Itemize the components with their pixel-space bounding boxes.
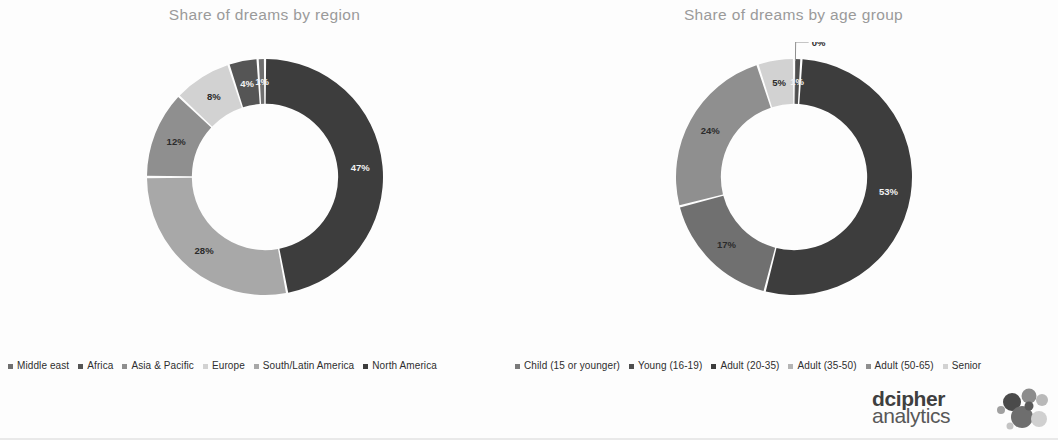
slice-value-label: 47% <box>350 162 370 173</box>
donut-svg-region: 47%28%12%8%4%1% <box>130 42 400 312</box>
legend-item[interactable]: Middle east <box>8 361 69 371</box>
legend-item-label: North America <box>372 361 437 371</box>
logo-dots-icon <box>986 388 1050 434</box>
legend-item-label: Europe <box>212 361 245 371</box>
legend-swatch-icon <box>363 364 368 369</box>
legend-item[interactable]: Adult (35-50) <box>788 361 856 371</box>
chart-title-region: Share of dreams by region <box>0 6 529 24</box>
legend-swatch-icon <box>203 364 208 369</box>
slice-value-label: 53% <box>878 186 898 197</box>
slice-value-label: 8% <box>206 91 220 102</box>
legend-item[interactable]: Adult (20-35) <box>711 361 779 371</box>
legend-item[interactable]: South/Latin America <box>254 361 354 371</box>
donut-callouts-age-group: 0% <box>795 42 826 61</box>
legend-swatch-icon <box>866 364 871 369</box>
legend-item[interactable]: Adult (50-65) <box>866 361 934 371</box>
slice-value-label: 28% <box>194 245 214 256</box>
legend-item-label: Middle east <box>17 361 69 371</box>
slice-value-label: 24% <box>700 125 720 136</box>
legend-swatch-icon <box>8 364 13 369</box>
legend-item-label: Africa <box>87 361 113 371</box>
legend-item[interactable]: Child (15 or younger) <box>515 361 620 371</box>
legend-item[interactable]: North America <box>363 361 437 371</box>
slice-value-label: 4% <box>240 78 254 89</box>
legend-swatch-icon <box>943 364 948 369</box>
legend-item-label: Young (16-19) <box>638 361 702 371</box>
legend-age-group: Child (15 or younger)Young (16-19)Adult … <box>515 356 981 376</box>
donut-slice[interactable] <box>676 65 771 205</box>
donut-chart-age-group: 1%53%17%24%5% 0% <box>659 42 929 312</box>
legend-region: Middle eastAfricaAsia & PacificEuropeSou… <box>8 356 437 376</box>
legend-swatch-icon <box>629 364 634 369</box>
legend-item-label: Senior <box>952 361 982 371</box>
legend-swatch-icon <box>254 364 259 369</box>
slice-callout-label: 0% <box>811 42 825 48</box>
donut-slice[interactable] <box>147 178 286 295</box>
donut-slice[interactable] <box>265 59 382 293</box>
legend-item[interactable]: Senior <box>943 361 982 371</box>
legend-swatch-icon <box>711 364 716 369</box>
slice-callout-line <box>795 42 808 61</box>
slice-value-label: 1% <box>790 76 804 87</box>
legend-item-label: Adult (20-35) <box>720 361 779 371</box>
donut-svg-age-group: 1%53%17%24%5% 0% <box>659 42 929 312</box>
chart-panel-age-group: Share of dreams by age group 1%53%17%24%… <box>529 0 1058 385</box>
slice-value-label: 17% <box>716 239 736 250</box>
dcipher-analytics-logo: dcipher analytics <box>872 388 1050 436</box>
slice-value-label: 1% <box>255 76 269 87</box>
donut-slices-region <box>147 59 383 295</box>
slice-value-label: 12% <box>166 136 186 147</box>
legend-item[interactable]: Young (16-19) <box>629 361 702 371</box>
chart-panel-region: Share of dreams by region 47%28%12%8%4%1… <box>0 0 529 385</box>
logo-wordmark: dcipher analytics <box>872 390 950 424</box>
slice-value-label: 5% <box>772 77 786 88</box>
legend-item-label: Adult (35-50) <box>797 361 856 371</box>
legend-swatch-icon <box>515 364 520 369</box>
legend-item-label: Asia & Pacific <box>131 361 194 371</box>
legend-swatch-icon <box>78 364 83 369</box>
legend-item[interactable]: Asia & Pacific <box>122 361 194 371</box>
legend-item-label: Child (15 or younger) <box>524 361 620 371</box>
report-page: Share of dreams by region 47%28%12%8%4%1… <box>0 0 1058 440</box>
legend-item[interactable]: Africa <box>78 361 113 371</box>
chart-title-age-group: Share of dreams by age group <box>529 6 1058 24</box>
donut-chart-region: 47%28%12%8%4%1% <box>130 42 400 312</box>
logo-line-analytics: analytics <box>872 407 950 424</box>
legend-item-label: South/Latin America <box>263 361 354 371</box>
legend-item-label: Adult (50-65) <box>875 361 934 371</box>
donut-slices-age-group <box>676 59 912 295</box>
legend-swatch-icon <box>788 364 793 369</box>
legend-swatch-icon <box>122 364 127 369</box>
legend-item[interactable]: Europe <box>203 361 245 371</box>
